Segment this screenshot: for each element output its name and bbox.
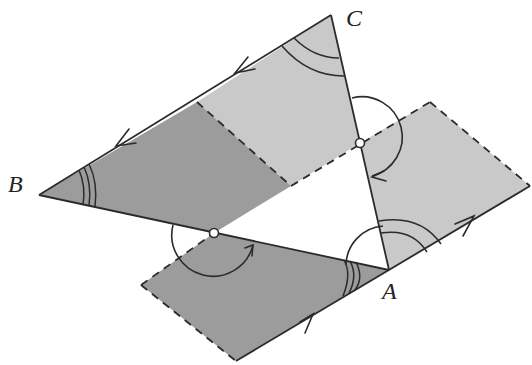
vertex-label-c: C [346,6,362,30]
vertex-label-b: B [8,172,23,196]
vertex-label-a: A [382,279,397,303]
region-dark-lower [141,233,389,361]
midpoint-ca-marker [356,139,365,148]
triangle-rotation-diagram [0,0,532,365]
midpoint-ba-marker [210,229,219,238]
region-light-right [360,102,530,270]
